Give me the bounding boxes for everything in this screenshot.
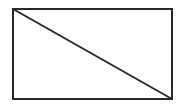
diagonal-line: [13, 9, 172, 99]
diagram-canvas: [0, 0, 181, 105]
